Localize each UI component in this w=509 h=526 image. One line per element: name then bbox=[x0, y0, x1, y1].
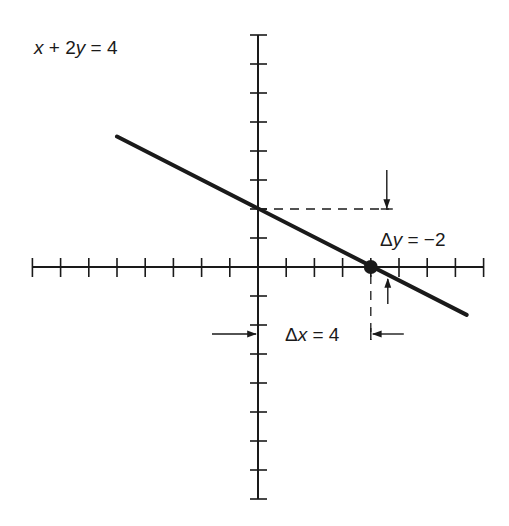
delta-x-label: Δx = 4 bbox=[285, 324, 340, 345]
equation-equals-4: = 4 bbox=[85, 37, 118, 58]
delta-y-label: Δy = −2 bbox=[380, 229, 446, 250]
delta-x-value: = 4 bbox=[307, 324, 340, 345]
diagram-canvas: x + 2y = 4 Δy = −2 Δx = 4 bbox=[0, 0, 509, 526]
delta-x-symbol: Δ bbox=[285, 324, 298, 345]
delta-y-value: = −2 bbox=[402, 229, 445, 250]
x-intercept-point bbox=[364, 260, 378, 274]
equation-plus-2: + 2 bbox=[44, 37, 76, 58]
coordinate-axes bbox=[32, 35, 483, 499]
delta-y-symbol: Δ bbox=[380, 229, 393, 250]
plotted-line bbox=[117, 137, 467, 315]
line-graph: x + 2y = 4 Δy = −2 Δx = 4 bbox=[0, 0, 509, 526]
equation-label: x + 2y = 4 bbox=[33, 37, 118, 58]
